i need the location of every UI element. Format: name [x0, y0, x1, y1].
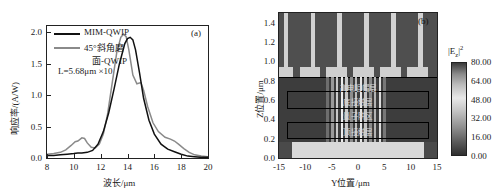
panel-a-ytick: 1.0: [18, 90, 42, 100]
panel-b-ytick: 0.0: [252, 153, 275, 163]
legend-item-bevel: 45°斜角磨: [54, 42, 164, 54]
panel-a-xtick: 12: [95, 162, 107, 172]
panel-a-xtick: 14: [122, 162, 134, 172]
panel-b-xtick: 15: [428, 162, 446, 172]
panel-b-xtick: 5: [375, 162, 393, 172]
panel-b-ytick: 1.0: [252, 56, 275, 66]
colorbar-tick: 64.00: [471, 76, 491, 86]
panel-a-xtick: 20: [202, 162, 214, 172]
panel-b-xtick: 0: [349, 162, 367, 172]
panel-a-xtick-mark: [101, 154, 102, 158]
panel-b-plot-area: 高电阻帽层 底接触层 量子阱区 顶接触层: [278, 12, 438, 159]
colorbar-gradient: [451, 62, 467, 156]
panel-a-xtick-mark: [154, 154, 155, 158]
legend-item-mim: MIM-QWIP: [54, 28, 164, 40]
figure-container: MIM-QWIP 45°斜角磨 面-QWIP L=5.68μm ×10 (a) …: [0, 0, 503, 194]
grating-cap: [407, 67, 428, 77]
grating-cap: [380, 67, 401, 77]
colorbar-title-sup: 2: [460, 44, 463, 51]
panel-a-xlabel: 波长/μm: [103, 176, 135, 189]
colorbar-tick: 16.00: [471, 132, 491, 142]
grating-cap: [326, 67, 347, 77]
panel-b-ytick: 0.6: [252, 95, 275, 105]
region-label-bottom-contact: 底接触层: [279, 96, 437, 107]
region-label-quantum-well: 量子阱区: [279, 110, 437, 121]
panel-b-xtick: -15: [270, 162, 288, 172]
colorbar-tick: 32.00: [471, 113, 491, 123]
panel-a-xtick-mark: [128, 154, 129, 158]
region-label-top-contact: 顶接触层: [279, 126, 437, 137]
panel-b-ytick: 0.8: [252, 76, 275, 86]
panel-a-ytick-mark: [47, 158, 51, 159]
panel-b-xtick: 10: [402, 162, 420, 172]
panel-b-ytick: 1.4: [252, 18, 275, 28]
colorbar-title-sub: z: [455, 51, 458, 58]
panel-b-field-map: 高电阻帽层 底接触层 量子阱区 顶接触层: [279, 13, 437, 158]
grating-cap: [353, 67, 374, 77]
panel-b-ytick: 0.4: [252, 114, 275, 124]
panel-a-ytick-mark: [47, 127, 51, 128]
panel-b-ytick: 0.2: [252, 134, 275, 144]
panel-b-xlabel: Y位置/μm: [331, 176, 370, 189]
panel-a-ytick: 0.5: [18, 122, 42, 132]
panel-b-ytick: 1.2: [252, 37, 275, 47]
grating-cap: [278, 67, 293, 77]
panel-b-xtick: -5: [323, 162, 341, 172]
colorbar-tick: 80.00: [471, 57, 491, 67]
legend-label-bevel: 45°斜角磨: [84, 41, 124, 54]
panel-a-ytick: 1.5: [18, 59, 42, 69]
panel-a-ytick-mark: [47, 95, 51, 96]
colorbar-title: |Ez|2: [448, 44, 463, 58]
legend-label-mim: MIM-QWIP: [84, 27, 129, 37]
region-bottom-metal: [292, 142, 425, 158]
panel-a-xtick: 18: [175, 162, 187, 172]
panel-a: MIM-QWIP 45°斜角磨 面-QWIP L=5.68μm ×10 (a) …: [0, 0, 248, 194]
legend-swatch-bevel: [54, 47, 80, 49]
panel-b: 高电阻帽层 底接触层 量子阱区 顶接触层 Z位置/μm Y位置/μm (b) -…: [248, 0, 503, 194]
panel-a-xtick-mark: [74, 154, 75, 158]
legend-swatch-mim: [54, 33, 80, 35]
panel-a-xtick: 16: [148, 162, 160, 172]
panel-b-xtick: -10: [296, 162, 314, 172]
panel-a-annotation: L=5.68μm ×10: [58, 66, 112, 76]
panel-a-xtick-mark: [181, 154, 182, 158]
panel-a-ytick: 0.0: [18, 153, 42, 163]
panel-a-xtick: 10: [68, 162, 80, 172]
panel-a-legend: MIM-QWIP 45°斜角磨 面-QWIP: [54, 28, 164, 67]
panel-a-tag: (a): [191, 28, 201, 38]
panel-a-xtick: 8: [41, 162, 53, 172]
panel-b-tag: (b): [418, 16, 429, 26]
panel-a-ytick-mark: [47, 64, 51, 65]
colorbar-tick: 48.00: [471, 95, 491, 105]
region-label-cap: 高电阻帽层: [279, 82, 437, 93]
stack-top-boundary: [279, 77, 437, 78]
panel-a-ytick: 2.0: [18, 27, 42, 37]
panel-a-xtick-mark: [208, 154, 209, 158]
grating-cap: [300, 67, 321, 77]
colorbar-tick: 0.00: [471, 151, 487, 161]
panel-a-ytick-mark: [47, 32, 51, 33]
